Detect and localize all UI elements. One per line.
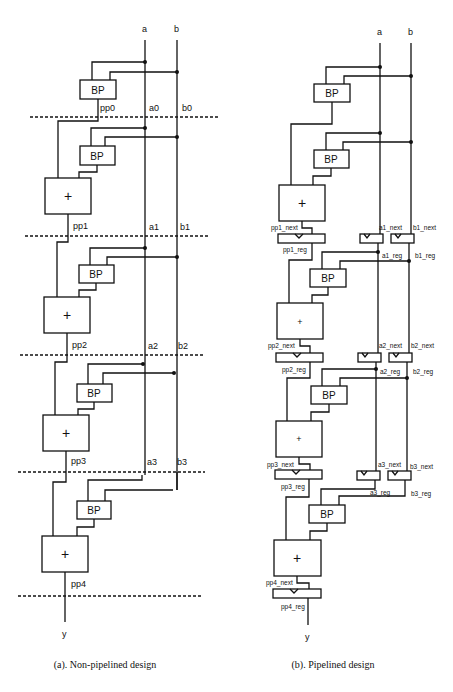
bp-label: BP: [87, 388, 101, 399]
a3-label: a3: [147, 457, 157, 467]
wire: [58, 99, 98, 178]
plus-label: +: [63, 307, 71, 323]
wire: [57, 214, 68, 297]
pipeline-diagram: a b BP pp0 a0 b0 BP + pp1 a1 b1: [0, 0, 453, 692]
wire: [79, 283, 96, 297]
bp-label: BP: [320, 509, 334, 520]
bp-label: BP: [322, 390, 336, 401]
bp-label: BP: [324, 154, 338, 165]
pipelined-panel: a b BP BP + pp1_next pp1_reg a1_next b1_…: [266, 27, 436, 671]
output-y-label: y: [305, 632, 310, 642]
wire: [343, 142, 411, 150]
wire: [55, 333, 67, 415]
b2-next-label: b2_next: [411, 342, 434, 350]
a0-label: a0: [149, 103, 159, 113]
plus-label: +: [62, 425, 70, 441]
input-b-label: b: [174, 24, 179, 34]
wire: [77, 519, 94, 536]
pp4-reg-label: pp4_reg: [281, 603, 305, 611]
plus-label: +: [293, 550, 301, 566]
a1-reg-label: a1_reg: [382, 252, 403, 260]
wire: [311, 404, 329, 421]
non-pipelined-panel: a b BP pp0 a0 b0 BP + pp1 a1 b1: [18, 24, 218, 671]
junction-dot: [175, 135, 179, 139]
junction-dot: [374, 367, 378, 371]
pp1-reg-label: pp1_reg: [283, 246, 307, 254]
b2-label: b2: [178, 341, 188, 351]
wire: [53, 451, 66, 536]
pp3-reg-label: pp3_reg: [281, 483, 305, 491]
bp-label: BP: [89, 269, 103, 280]
b1-label: b1: [180, 222, 190, 232]
b1-reg-label: b1_reg: [415, 252, 436, 260]
pp3-label: pp3: [71, 456, 86, 466]
register-block: [357, 471, 380, 480]
input-a-label: a: [142, 24, 147, 34]
wire: [88, 475, 142, 501]
wire: [300, 339, 310, 353]
wire: [310, 523, 327, 540]
b0-label: b0: [182, 103, 192, 113]
plus-label: +: [61, 546, 69, 562]
junction-dot: [405, 376, 409, 380]
wire: [340, 261, 409, 269]
bp-label: BP: [321, 273, 335, 284]
wire: [105, 490, 173, 501]
wire: [78, 402, 94, 415]
b3-reg-label: b3_reg: [411, 490, 432, 498]
a1-next-label: a1_next: [379, 224, 402, 232]
junction-dot: [407, 259, 411, 263]
junction-dot: [175, 255, 179, 259]
bp-label: BP: [325, 88, 339, 99]
wire: [297, 576, 309, 589]
output-y-label: y: [62, 629, 67, 639]
wire: [312, 287, 328, 303]
b3-label: b3: [177, 457, 187, 467]
pp3-next-label: pp3_next: [267, 461, 294, 469]
wire: [110, 72, 177, 80]
input-b-label: b: [408, 27, 413, 37]
b2-reg-label: b2_reg: [413, 368, 434, 376]
b1-next-label: b1_next: [413, 224, 436, 232]
plus-label: +: [297, 317, 302, 327]
wire: [299, 457, 310, 470]
pp2-label: pp2: [72, 340, 87, 350]
a3-next-label: a3_next: [378, 461, 401, 469]
bp-label: BP: [87, 505, 101, 516]
caption-pipelined: (b). Pipelined design: [291, 659, 374, 671]
register-block: [358, 353, 381, 362]
caption-non-pipelined: (a). Non-pipelined design: [54, 659, 156, 671]
register-block: [388, 471, 411, 480]
junction-dot: [143, 60, 147, 64]
pp2-next-label: pp2_next: [268, 342, 295, 350]
junction-dot: [172, 371, 176, 375]
wire: [344, 76, 411, 84]
plus-label: +: [64, 188, 72, 204]
register-block: [360, 234, 383, 243]
pp1-next-label: pp1_next: [271, 224, 298, 232]
wire: [103, 373, 174, 384]
junction-dot: [376, 250, 380, 254]
junction-dot: [378, 65, 382, 69]
a2-label: a2: [148, 341, 158, 351]
register-block: [391, 234, 414, 243]
bp-label: BP: [91, 85, 105, 96]
wire: [79, 165, 97, 178]
pp0-label: pp0: [100, 103, 115, 113]
pp4-label: pp4: [71, 579, 86, 589]
junction-dot: [175, 70, 179, 74]
wire: [340, 378, 407, 386]
wire: [107, 257, 177, 265]
pp1-label: pp1: [73, 221, 88, 231]
a1-label: a1: [149, 222, 159, 232]
junction-dot: [409, 74, 413, 78]
wire: [313, 168, 331, 185]
input-a-label: a: [377, 27, 382, 37]
wire: [321, 480, 375, 505]
junction-dot: [141, 362, 145, 366]
junction-dot: [409, 140, 413, 144]
a2-reg-label: a2_reg: [380, 368, 401, 376]
b3-next-label: b3_next: [410, 463, 433, 471]
wire: [105, 137, 177, 146]
junction-dot: [143, 126, 147, 130]
